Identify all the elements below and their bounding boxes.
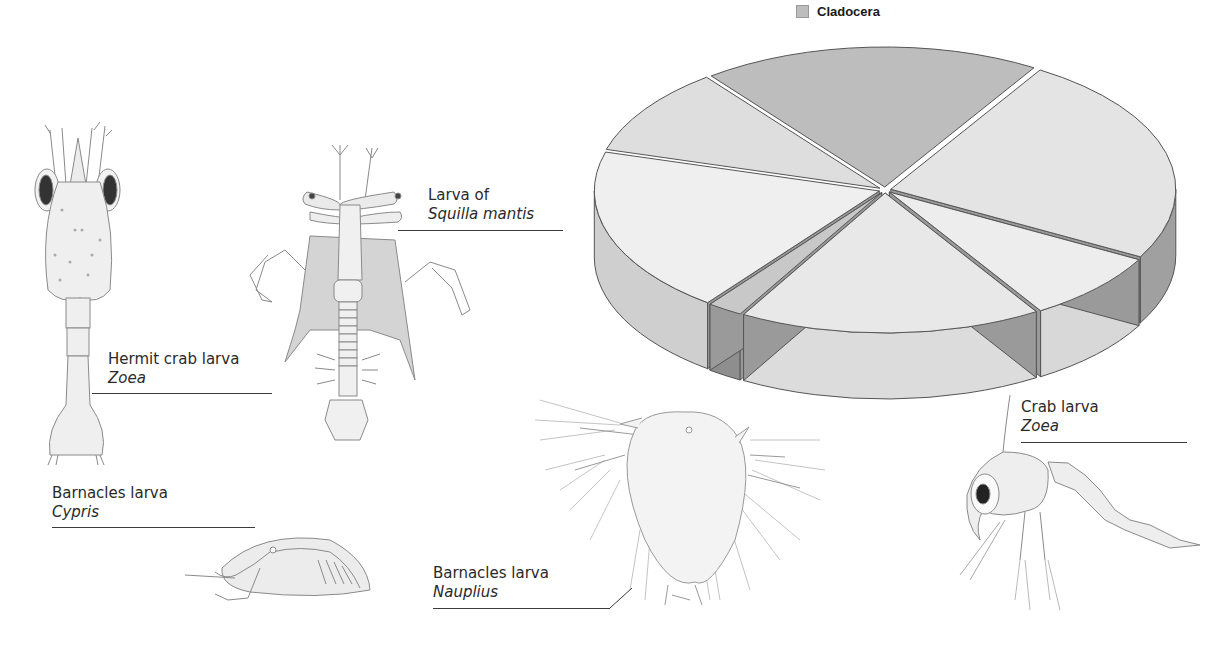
label-cypris: Barnacles larva Cypris <box>52 484 168 522</box>
leader-line-nauplius <box>433 608 610 609</box>
leader-line-cypris <box>52 527 255 528</box>
label-crab-line1: Crab larva <box>1021 398 1099 416</box>
label-nauplius-line1: Barnacles larva <box>433 564 549 582</box>
label-hermit-crab: Hermit crab larva Zoea <box>108 350 239 388</box>
label-nauplius: Barnacles larva Nauplius <box>433 564 549 602</box>
label-crab-line2: Zoea <box>1021 417 1099 436</box>
label-squilla: Larva of Squilla mantis <box>428 186 534 224</box>
label-hermit-line1: Hermit crab larva <box>108 350 239 368</box>
label-crab: Crab larva Zoea <box>1021 398 1099 436</box>
leader-line-crab <box>1021 442 1187 443</box>
label-nauplius-line2: Nauplius <box>433 583 549 602</box>
label-hermit-line2: Zoea <box>108 369 239 388</box>
leader-line-hermit <box>92 393 272 394</box>
label-cypris-line1: Barnacles larva <box>52 484 168 502</box>
pie-chart-3d <box>0 0 1223 645</box>
label-squilla-line2: Squilla mantis <box>428 205 534 224</box>
leader-line-squilla <box>398 230 563 231</box>
label-cypris-line2: Cypris <box>52 503 168 522</box>
label-squilla-line1: Larva of <box>428 186 489 204</box>
